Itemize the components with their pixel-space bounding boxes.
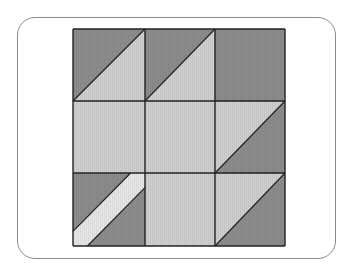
quilt-block [0, 0, 356, 272]
fabric-texture [73, 29, 285, 246]
